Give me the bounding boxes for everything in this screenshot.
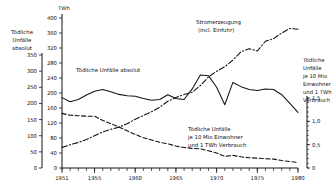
y-tick-label: 40 [50,150,57,156]
annotation-stromerzeugung-line2: (incl. Einfuhr) [198,27,234,33]
secondary-left-tick-label: 150 [27,117,38,123]
y-tick-label: 200 [47,90,58,96]
secondary-left-axis-title-line: Unfälle [13,37,33,43]
secondary-right-axis-title-line: Verbrauch [303,97,330,103]
chart-curves-layer [62,29,298,163]
x-tick-label: 1975 [251,175,264,181]
annotation-rate-line1: Tödliche Unfälle [187,126,231,132]
series-stromerzeugung-incl-einfuhr [62,29,298,148]
secondary-right-tick-label: 1,0 [312,118,321,124]
y-tick-label: 160 [47,105,58,111]
annotation-stromerzeugung-line1: Stromerzeugung [196,19,241,26]
secondary-left-tick-label: 0 [34,165,38,171]
secondary-left-axis-title-line: Tödliche [10,29,34,35]
annotation-absolut: Tödliche Unfälle absolut [75,67,140,73]
secondary-right-axis-title-line: Unfälle [303,65,322,71]
annotation-rate-line2: je 10 Mio Einwohner [187,134,243,141]
secondary-left-tick-label: 100 [27,133,38,139]
y-tick-label: 80 [50,135,57,141]
secondary-left-tick-label: 200 [27,100,38,106]
x-tick-label: 1960 [128,175,142,181]
chart-container: 04080120160200240280320360400TWh05010015… [0,0,335,188]
x-tick-label: 1955 [88,175,101,181]
chart-text-layer: 04080120160200240280320360400TWh05010015… [10,5,332,181]
secondary-right-axis-title-line: Tödliche [302,57,325,63]
secondary-left-tick-label: 350 [27,52,38,58]
y-tick-label: 0 [54,165,58,171]
secondary-right-axis-title-line: je 10 Mio [302,73,327,80]
secondary-right-axis-title-line: und 1 TWh [303,89,332,95]
chart-svg: 04080120160200240280320360400TWh05010015… [0,0,335,188]
y-tick-label: 120 [47,120,58,126]
annotation-rate-line3: und 1 TWh Verbrauch [188,142,246,148]
series-toedliche-unfaelle-absolut [62,75,298,112]
secondary-right-axis-title-line: Einwohner [303,81,332,87]
secondary-left-tick-label: 50 [30,149,37,155]
series-unfaelle-je-10mio-einwohner-und-twh [62,113,298,162]
x-tick-label: 1980 [291,175,305,181]
secondary-right-tick-label: 0,5 [312,142,320,148]
x-tick-label: 1951 [55,175,68,181]
chart-static-layer [39,14,310,173]
y-tick-label: 240 [47,75,58,81]
secondary-right-tick-label: 0 [312,165,316,171]
secondary-left-tick-label: 300 [27,68,38,74]
y-axis-unit-label: TWh [57,5,70,11]
y-tick-label: 280 [47,60,58,66]
secondary-left-axis-title-line: absolut [12,45,32,51]
x-tick-label: 1965 [169,175,182,181]
x-tick-label: 1970 [210,175,224,181]
y-tick-label: 360 [47,30,58,36]
secondary-left-tick-label: 250 [27,84,38,90]
y-tick-label: 400 [47,15,58,21]
y-tick-label: 320 [47,45,58,51]
